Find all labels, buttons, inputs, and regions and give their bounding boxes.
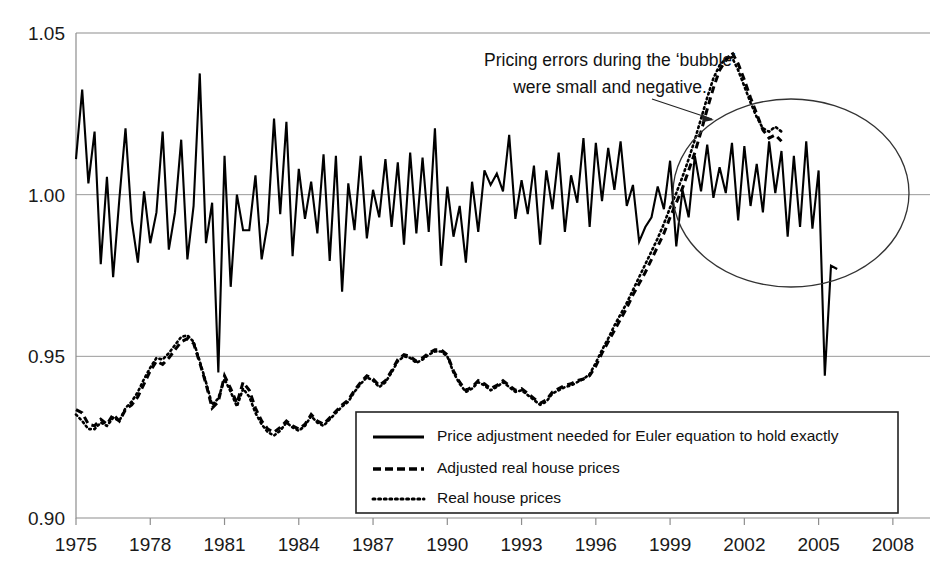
- y-tick-label-0.95: 0.95: [28, 346, 65, 367]
- y-tick-label-1.05: 1.05: [28, 23, 65, 44]
- x-tick-label-1981: 1981: [203, 534, 245, 555]
- legend[interactable]: Price adjustment needed for Euler equati…: [356, 412, 898, 513]
- x-tick-label-1975: 1975: [55, 534, 97, 555]
- chart-svg: 1.051.000.950.90 19751978198119841987199…: [0, 0, 951, 571]
- annotation-line-2: were small and negative.: [512, 77, 707, 97]
- x-tick-label-1984: 1984: [278, 534, 321, 555]
- x-tick-label-2008: 2008: [872, 534, 914, 555]
- x-tick-label-1996: 1996: [575, 534, 617, 555]
- x-tick-label-1999: 1999: [649, 534, 691, 555]
- annotation-line-1: Pricing errors during the ‘bubble’: [484, 50, 736, 70]
- legend-label-adjusted: Adjusted real house prices: [437, 459, 620, 476]
- x-tick-label-1987: 1987: [352, 534, 394, 555]
- x-tick-label-1990: 1990: [426, 534, 468, 555]
- x-tick-label-1993: 1993: [500, 534, 542, 555]
- legend-label-real: Real house prices: [437, 489, 561, 506]
- y-tick-label-0.90: 0.90: [28, 508, 65, 529]
- x-tick-label-2002: 2002: [723, 534, 765, 555]
- legend-item-euler[interactable]: Price adjustment needed for Euler equati…: [373, 427, 839, 444]
- x-tick-label-2005: 2005: [797, 534, 839, 555]
- x-tick-label-1978: 1978: [129, 534, 171, 555]
- legend-label-euler: Price adjustment needed for Euler equati…: [437, 427, 839, 444]
- y-tick-label-1.00: 1.00: [28, 185, 65, 206]
- chart-figure: 1.051.000.950.90 19751978198119841987199…: [0, 0, 951, 571]
